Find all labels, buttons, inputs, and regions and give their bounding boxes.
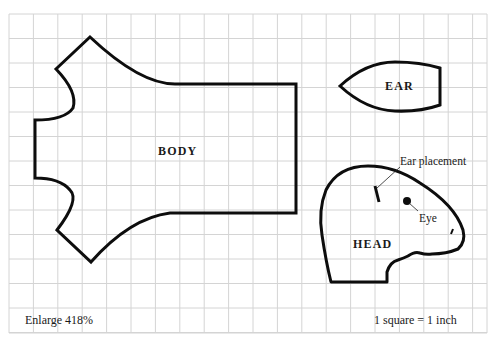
body-label: BODY <box>158 144 197 159</box>
nostril-mark <box>451 229 453 234</box>
head-label: HEAD <box>353 237 392 252</box>
head-outline <box>321 166 464 282</box>
ear-placement-leader <box>377 167 400 188</box>
ear-placement-label: Ear placement <box>400 155 466 167</box>
ear-label: EAR <box>385 79 414 94</box>
scale-note: 1 square = 1 inch <box>374 313 457 328</box>
enlarge-note: Enlarge 418% <box>25 313 93 328</box>
ear-placement-mark <box>375 186 379 202</box>
pattern-canvas <box>0 0 497 342</box>
eye-label: Eye <box>419 212 437 224</box>
